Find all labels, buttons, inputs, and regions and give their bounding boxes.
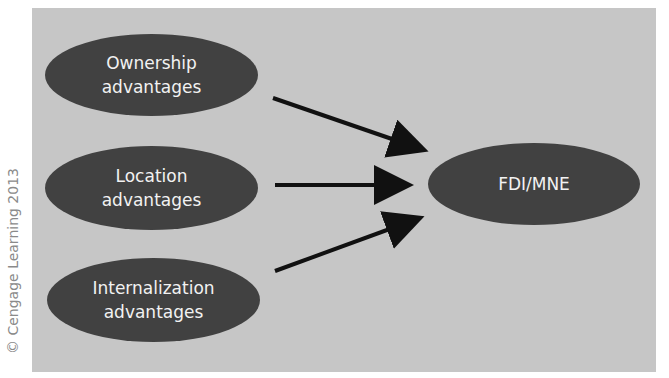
node-label-line2: advantages [104, 300, 204, 324]
copyright-notice: © Cengage Learning 2013 [0, 150, 26, 372]
node-ownership-advantages: Ownership advantages [45, 34, 258, 116]
node-label: FDI/MNE [498, 172, 570, 196]
node-label-line2: advantages [102, 75, 202, 99]
node-internalization-advantages: Internalization advantages [47, 258, 260, 342]
node-label-line1: Location [116, 164, 188, 188]
node-location-advantages: Location advantages [45, 146, 258, 230]
diagram-panel: Ownership advantages Location advantages… [32, 8, 656, 372]
node-label-line1: Internalization [92, 276, 214, 300]
copyright-text: © Cengage Learning 2013 [5, 168, 21, 354]
node-fdi-mne: FDI/MNE [428, 143, 640, 225]
node-label-line2: advantages [102, 188, 202, 212]
node-label-line1: Ownership [106, 51, 197, 75]
arrow-internalization-to-fdi [275, 219, 417, 271]
arrow-ownership-to-fdi [273, 98, 421, 149]
